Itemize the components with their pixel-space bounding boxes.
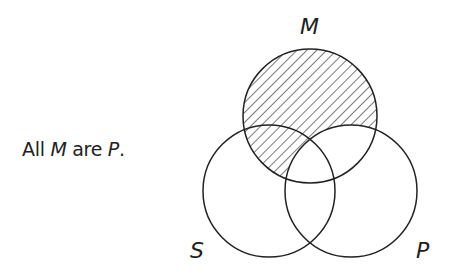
venn-diagram: M S P <box>0 0 455 280</box>
label-s: S <box>190 238 204 263</box>
shaded-region-m-not-p <box>240 45 380 185</box>
label-m: M <box>300 14 319 39</box>
label-p: P <box>416 238 430 263</box>
